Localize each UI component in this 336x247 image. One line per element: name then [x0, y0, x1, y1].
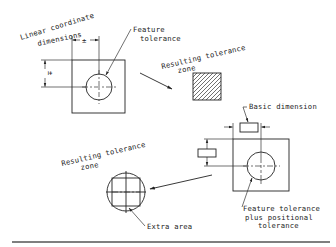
- feature-tolerance-label-2: tolerance: [140, 34, 181, 43]
- leader-line: [129, 208, 145, 226]
- leader-line: [243, 107, 248, 122]
- resulting-zone-label: Resulting tolerance: [160, 43, 246, 71]
- transition-arrow: [150, 175, 212, 189]
- extra-area-label: Extra area: [147, 222, 192, 231]
- part-outline-square: [72, 60, 125, 113]
- resulting-zone-label-2: zone: [80, 160, 99, 172]
- feature-positional-label-3: tolerance: [258, 221, 299, 230]
- circular-tolerance-zone-view: Resulting tolerance zone Extra area: [60, 140, 212, 231]
- feature-tolerance-label: Feature: [133, 25, 165, 34]
- tolerance-diagram: Linear coordinate dimensions ± ± Feature…: [0, 0, 336, 247]
- vertical-dim-tolerance: ±: [46, 71, 55, 76]
- linear-coordinate-view: Linear coordinate dimensions ± ± Feature…: [19, 11, 181, 113]
- leader-line: [242, 178, 252, 207]
- transition-arrow: [140, 73, 172, 89]
- basic-dimension-box-side: [198, 149, 216, 157]
- horizontal-dim-tolerance: ±: [82, 36, 87, 45]
- positional-tolerance-view: Basic dimension Feature tolerance plus p…: [198, 102, 320, 230]
- leader-line: [106, 29, 131, 75]
- resulting-zone-label: Resulting tolerance: [60, 140, 146, 168]
- hatch-pattern: [166, 73, 245, 100]
- square-tolerance-zone-view: Resulting tolerance zone: [140, 43, 246, 100]
- basic-dimension-label: Basic dimension: [249, 102, 317, 111]
- basic-dimension-box-top: [240, 123, 258, 132]
